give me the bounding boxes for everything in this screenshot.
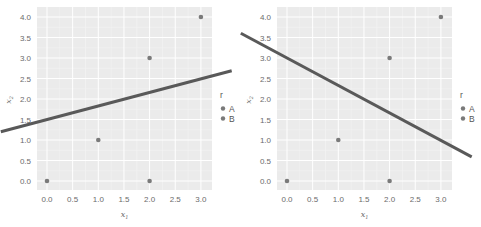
legend-label-A: A [229, 104, 235, 114]
y-tick-label: 1.0 [20, 136, 32, 145]
legend-key-A [461, 106, 465, 110]
data-point-B [147, 179, 152, 184]
data-point-A [147, 56, 152, 61]
x-axis-label: x1 [361, 210, 369, 220]
y-tick-label: 3.5 [20, 34, 32, 43]
y-tick-label: 3.0 [260, 54, 272, 63]
y-tick-label: 1.0 [260, 136, 272, 145]
y-tick-label: 3.5 [260, 34, 272, 43]
legend-label-B: B [469, 114, 475, 124]
x-axis-label: x1 [121, 210, 129, 220]
left-plot: 0.00.51.01.52.02.53.00.00.51.01.52.02.53… [0, 0, 240, 227]
y-tick-label: 0.0 [260, 177, 272, 186]
legend-label-A: A [469, 104, 475, 114]
data-point-A [387, 56, 392, 61]
legend-key-B [221, 116, 225, 120]
y-tick-label: 3.0 [20, 54, 32, 63]
legend-title: r [460, 90, 463, 100]
y-tick-label: 1.5 [260, 116, 272, 125]
legend-key-B [461, 116, 465, 120]
x-tick-label: 2.0 [144, 195, 156, 204]
y-tick-label: 0.0 [20, 177, 32, 186]
x-tick-label: 3.0 [195, 195, 207, 204]
data-point-A [96, 138, 101, 143]
y-tick-label: 2.5 [260, 75, 272, 84]
data-point-A [45, 179, 50, 184]
data-point-B [439, 15, 444, 20]
y-tick-label: 4.0 [20, 13, 32, 22]
x-tick-label: 3.0 [435, 195, 447, 204]
legend-label-B: B [229, 114, 235, 124]
left-chart-svg: 0.00.51.01.52.02.53.00.00.51.01.52.02.53… [0, 0, 240, 227]
y-axis-label: x2 [244, 96, 254, 104]
y-tick-label: 0.5 [260, 157, 272, 166]
x-tick-label: 1.5 [118, 195, 130, 204]
x-tick-label: 2.0 [384, 195, 396, 204]
data-point-B [199, 15, 204, 20]
right-plot: 0.00.51.01.52.02.53.00.00.51.01.52.02.53… [240, 0, 480, 227]
y-tick-label: 0.5 [20, 157, 32, 166]
x-tick-label: 2.5 [170, 195, 182, 204]
y-tick-label: 4.0 [260, 13, 272, 22]
legend-title: r [220, 90, 223, 100]
x-tick-label: 1.5 [358, 195, 370, 204]
x-tick-label: 1.0 [333, 195, 345, 204]
x-tick-label: 0.5 [307, 195, 319, 204]
x-tick-label: 1.0 [93, 195, 105, 204]
x-tick-label: 0.0 [281, 195, 293, 204]
y-tick-label: 2.5 [20, 75, 32, 84]
x-tick-label: 2.5 [410, 195, 422, 204]
data-point-A [336, 138, 341, 143]
y-tick-label: 2.0 [260, 95, 272, 104]
y-axis-label: x2 [4, 96, 14, 104]
legend-key-A [221, 106, 225, 110]
right-chart-svg: 0.00.51.01.52.02.53.00.00.51.01.52.02.53… [240, 0, 481, 227]
data-point-A [285, 179, 290, 184]
y-tick-label: 2.0 [20, 95, 32, 104]
x-tick-label: 0.5 [67, 195, 79, 204]
x-tick-label: 0.0 [41, 195, 53, 204]
data-point-B [387, 179, 392, 184]
